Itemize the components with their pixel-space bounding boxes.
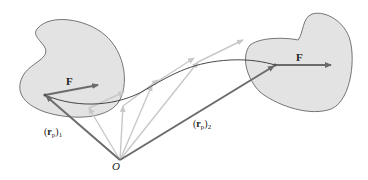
- force-label-initial: F: [66, 75, 73, 87]
- subscript-index: 2: [208, 123, 212, 131]
- point-p2: [273, 63, 276, 66]
- position-vector-2: [120, 66, 274, 160]
- subscript-p: p: [52, 131, 56, 139]
- point-p1: [43, 93, 46, 96]
- diagram-canvas: [0, 0, 368, 180]
- position-vector-2-label: (rp)2: [193, 118, 211, 131]
- subscript-p: p: [201, 123, 205, 131]
- position-vector-1-label: (rp)1: [44, 126, 62, 139]
- origin-label: O: [112, 160, 120, 172]
- force-label-final: F: [296, 51, 303, 63]
- subscript-index: 1: [59, 131, 63, 139]
